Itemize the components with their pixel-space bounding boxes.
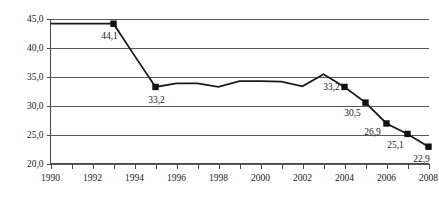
- data-point-label: 44,1: [101, 31, 118, 41]
- data-point-label: 30,5: [344, 108, 361, 118]
- data-point-markers: [110, 21, 431, 150]
- data-point-marker: [152, 84, 158, 90]
- x-axis-tick-label: 1996: [167, 173, 186, 183]
- x-axis-tick-label: 1992: [83, 173, 102, 183]
- data-point-marker: [404, 131, 410, 137]
- line-chart: 45,040,035,030,025,020,0 199019921994199…: [0, 0, 439, 203]
- data-point-marker: [341, 84, 347, 90]
- y-axis-tick-label: 30,0: [27, 101, 44, 111]
- data-point-label: 22,9: [413, 154, 430, 164]
- x-axis-tick-labels: 1990199219941996199820002002200420062008: [41, 173, 438, 183]
- y-axis-tick-label: 25,0: [27, 130, 44, 140]
- chart-canvas: 45,040,035,030,025,020,0 199019921994199…: [0, 0, 439, 203]
- data-point-label: 33,2: [323, 82, 340, 92]
- data-point-label: 26,9: [364, 127, 381, 137]
- gridlines: [51, 20, 429, 165]
- x-axis-tick-label: 2006: [377, 173, 396, 183]
- y-axis: [47, 19, 51, 165]
- data-point-marker: [425, 143, 431, 149]
- y-axis-tick-label: 20,0: [27, 159, 44, 169]
- y-axis-tick-label: 40,0: [27, 43, 44, 53]
- data-point-marker: [110, 21, 116, 27]
- data-point-label: 33,2: [148, 95, 165, 105]
- x-axis-tick-label: 2000: [251, 173, 270, 183]
- y-axis-tick-label: 35,0: [27, 72, 44, 82]
- x-axis-tick-label: 2002: [293, 173, 312, 183]
- y-axis-tick-labels: 45,040,035,030,025,020,0: [27, 14, 44, 169]
- data-point-labels: 44,133,233,230,526,925,122,9: [101, 31, 430, 164]
- y-axis-tick-label: 45,0: [27, 14, 44, 24]
- x-axis-tick-label: 2008: [419, 173, 438, 183]
- data-point-label: 25,1: [387, 140, 404, 150]
- x-axis-tick-label: 2004: [335, 173, 354, 183]
- data-point-marker: [362, 99, 368, 105]
- x-axis-tick-label: 1990: [41, 173, 60, 183]
- x-axis-tick-label: 1998: [209, 173, 228, 183]
- data-point-marker: [383, 120, 389, 126]
- x-axis-tick-label: 1994: [125, 173, 144, 183]
